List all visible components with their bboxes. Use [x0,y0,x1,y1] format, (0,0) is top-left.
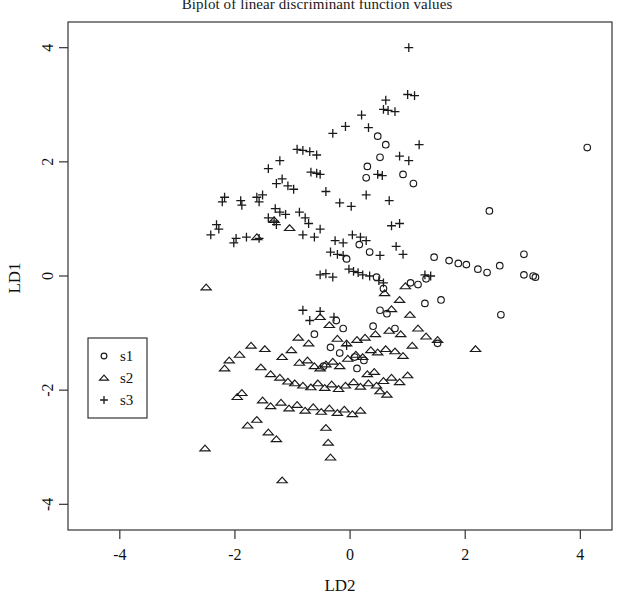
data-point-s2 [370,331,380,337]
data-point-s1 [366,249,373,256]
data-point-s3 [335,199,344,208]
data-point-s2 [396,331,406,337]
data-point-s2 [381,346,391,352]
x-tick-label: -4 [113,546,126,563]
data-point-s2 [348,379,358,385]
y-tick-label: -4 [39,498,56,511]
data-point-s3 [376,251,385,260]
data-point-s3 [316,225,325,234]
data-point-s3 [321,187,330,196]
data-point-s2 [321,425,331,431]
data-point-s2 [366,347,376,353]
data-point-s2 [232,394,242,400]
data-point-s3 [330,313,339,322]
y-axis-title: LD1 [5,262,24,293]
data-point-s3 [354,268,363,277]
axis-ticks [59,48,580,539]
data-point-s1 [363,175,370,182]
data-point-s2 [257,397,267,403]
data-point-s3 [395,219,404,228]
data-point-s3 [358,270,367,279]
data-point-s1 [370,323,377,330]
data-point-s1 [374,133,381,140]
data-point-s2 [421,333,431,339]
data-point-s1 [343,256,350,263]
data-point-s2 [293,334,303,340]
data-point-s2 [390,348,400,354]
legend-label-s3[interactable]: s3 [120,392,133,408]
data-point-s2 [219,365,229,371]
data-point-s2 [313,380,323,386]
data-point-s3 [298,146,307,155]
data-point-s3 [420,270,429,279]
data-point-s2 [369,369,379,375]
data-point-s3 [415,140,424,149]
data-point-s3 [232,234,241,243]
data-point-s3 [373,170,382,179]
data-point-s3 [403,90,412,99]
data-point-s2 [375,388,385,394]
data-point-s3 [218,197,227,206]
data-point-s3 [220,193,229,202]
x-axis-title: LD2 [324,576,355,595]
data-point-s2 [328,358,338,364]
data-point-s2 [327,381,337,387]
data-point-s3 [281,210,290,219]
data-point-s3 [339,238,348,247]
data-point-s2 [304,340,314,346]
series-s1 [311,133,590,372]
data-point-s1 [415,281,422,288]
data-point-s2 [252,417,262,423]
data-point-s2 [276,399,286,405]
data-point-s1 [532,274,539,281]
data-point-s3 [333,250,342,259]
data-point-s3 [316,270,325,279]
legend-label-s2[interactable]: s2 [120,370,133,386]
data-point-s2 [386,306,396,312]
data-point-s1 [484,269,491,276]
data-point-s3 [378,171,387,180]
data-point-s3 [381,96,390,105]
data-point-s2 [403,372,413,378]
data-point-s2 [332,335,342,341]
axis-tick-labels: -4-2024-4-2024 [39,44,584,563]
data-point-s3 [295,208,304,217]
data-point-s2 [339,406,349,412]
data-point-s2 [256,364,266,370]
data-point-s2 [201,284,211,290]
data-point-s2 [224,357,234,363]
data-point-s2 [200,445,210,451]
data-point-s1 [431,254,438,261]
data-point-s3 [341,122,350,131]
data-point-s1 [521,251,528,258]
data-point-s1 [336,350,343,357]
data-point-s2 [308,404,318,410]
x-tick-label: 4 [576,546,584,563]
data-point-s3 [307,168,316,177]
data-point-s1 [584,144,591,151]
x-tick-label: 0 [346,546,354,563]
data-point-s3 [384,106,393,115]
data-point-s3 [252,193,261,202]
data-point-s2 [266,371,276,377]
scatter-plot-figure: Biplot of linear discriminant function v… [0,0,634,604]
legend[interactable]: s1s2s3 [88,338,147,418]
data-point-s3 [395,152,404,161]
data-point-s1 [356,241,363,248]
data-point-s1 [446,257,453,264]
legend-label-s1[interactable]: s1 [120,348,133,364]
data-point-s2 [286,347,296,353]
data-point-s3 [344,265,353,274]
data-point-s1 [327,344,334,351]
data-point-s2 [355,407,365,413]
data-point-s3 [298,230,307,239]
data-point-s3 [264,164,273,173]
data-point-s2 [263,429,273,435]
data-point-s3 [272,179,281,188]
data-point-s3 [404,43,413,52]
y-tick-label: 2 [39,158,56,166]
data-point-s3 [339,251,348,260]
data-point-s2 [302,357,312,363]
data-point-s2 [405,312,415,318]
data-point-s3 [404,156,413,165]
